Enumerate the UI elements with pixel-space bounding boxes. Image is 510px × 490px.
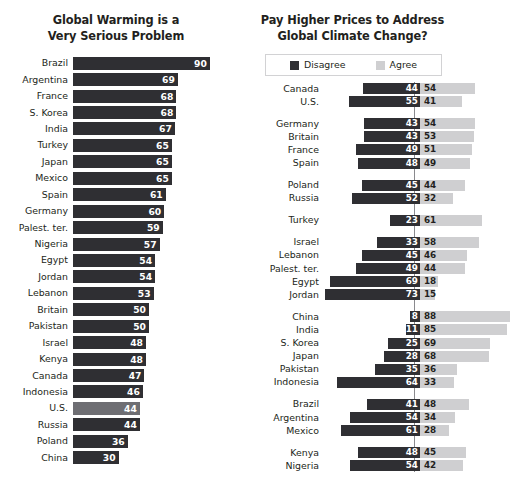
right-chart-value-agree: 33 [421,377,436,388]
left-chart-bar-track: 90 [73,57,232,70]
right-chart-bar-disagree: 11 [406,324,420,335]
left-chart-title-line2: Very Serious Problem [0,29,232,45]
right-chart-bar-track: 4951 [325,144,473,155]
left-chart-row: Britain50 [0,302,232,318]
left-chart-row-label: Brazil [0,58,73,68]
right-chart-row: Israel3358 [232,236,473,249]
left-chart-bar-value: 61 [150,188,166,201]
left-chart-bar-value: 68 [161,90,177,103]
legend-item-disagree: Disagree [290,60,346,70]
left-chart-bar-track: 44 [73,418,232,431]
left-chart-row-label: Indonesia [0,387,73,397]
left-chart-title: Global Warming is a Very Serious Problem [0,0,232,44]
right-chart-value-disagree: 49 [406,263,420,274]
left-chart-bar-value: 36 [112,435,128,448]
left-chart-row: India67 [0,121,232,137]
right-chart-bar-track: 5442 [325,460,473,471]
right-chart-bar-track: 4944 [325,263,473,274]
right-chart-value-agree: 51 [421,144,436,155]
left-chart-row: Argentina69 [0,71,232,87]
left-chart-row: Pakistan50 [0,318,232,334]
right-chart-value-agree: 44 [421,180,436,191]
left-chart-bar-value: 54 [139,254,155,267]
right-chart-bar-disagree: 35 [375,364,421,375]
left-chart-row: Russia44 [0,417,232,433]
left-chart-bar-track: 68 [73,106,232,119]
right-chart-value-agree: 28 [421,425,436,436]
right-chart-bar-track: 2868 [325,351,473,362]
left-chart-row-label: France [0,91,73,101]
right-chart-value-disagree: 44 [406,83,420,94]
right-chart-row: Palest. ter.4944 [232,262,473,275]
left-chart-bar-track: 36 [73,435,232,448]
left-chart-row-label: Japan [0,157,73,167]
right-chart-bar-track: 4353 [325,131,473,142]
right-chart-bar-track: 4544 [325,180,473,191]
right-chart-bar-disagree: 49 [356,144,420,155]
left-chart-bar: 46 [73,385,143,398]
left-chart-row: Brazil90 [0,55,232,71]
right-chart-value-disagree: 43 [406,118,420,129]
left-chart-bar-value: 48 [130,336,146,349]
right-chart-row-label: France [232,145,325,155]
left-chart-bar: 44 [73,402,140,415]
right-chart-row: Pakistan3536 [232,363,473,376]
right-chart-row-label: Brazil [232,399,325,409]
left-chart-bar-value: 54 [139,270,155,283]
left-chart-bar-track: 50 [73,303,232,316]
right-chart-row-label: Japan [232,351,325,361]
left-chart-bar-track: 60 [73,205,232,218]
left-chart-bar-track: 44 [73,402,232,415]
left-chart-bar-value: 53 [138,287,154,300]
left-chart-bar: 65 [73,172,172,185]
left-chart-row-label: Mexico [0,173,73,183]
right-chart-bar-disagree: 69 [330,276,420,287]
right-chart-row-label: Jordan [232,290,325,300]
right-chart-bar-track: 6918 [325,276,473,287]
left-chart-bar-value: 65 [156,155,172,168]
right-chart-bar-track: 2361 [325,215,473,226]
right-chart-value-disagree: 41 [406,399,420,410]
left-chart-bar: 47 [73,369,144,382]
left-chart-row-label: S. Korea [0,108,73,118]
right-chart-value-disagree: 73 [406,289,420,300]
right-chart-group-gap [232,205,473,214]
right-chart-value-agree: 44 [421,263,436,274]
right-chart-row-label: Russia [232,193,325,203]
right-chart-row-label: S. Korea [232,338,325,348]
right-chart-bar-disagree: 52 [352,193,420,204]
right-chart-row-label: Turkey [232,215,325,225]
left-chart-row-label: Canada [0,371,73,381]
right-chart-row-label: Lebanon [232,250,325,260]
left-chart-bar-value: 44 [124,402,140,415]
right-chart-row: Jordan7315 [232,288,473,301]
left-chart-bar-value: 60 [148,205,164,218]
left-chart-bar-track: 68 [73,90,232,103]
right-chart-bar-track: 5541 [325,96,473,107]
left-chart-bar: 59 [73,221,163,234]
right-chart-value-agree: 58 [421,237,436,248]
left-chart-bar-track: 67 [73,122,232,135]
right-chart-rows: Canada4454U.S.5541Germany4354Britain4353… [232,82,473,472]
left-chart-bar-track: 54 [73,270,232,283]
right-chart-bar-track: 4148 [325,399,473,410]
left-chart-row-label: Argentina [0,75,73,85]
left-chart-bar: 67 [73,122,175,135]
right-chart-bar-disagree: 43 [364,118,420,129]
right-chart-bar-disagree: 44 [363,83,420,94]
right-chart-value-disagree: 48 [406,447,420,458]
right-chart-value-disagree: 48 [406,158,420,169]
right-chart-value-agree: 45 [421,447,436,458]
right-chart-value-disagree: 55 [406,96,420,107]
right-chart-bar-disagree: 54 [350,412,420,423]
left-chart-row: Spain61 [0,187,232,203]
right-chart-group-gap [232,389,473,398]
right-chart-value-agree: 53 [421,131,436,142]
left-chart-row-label: Turkey [0,140,73,150]
right-chart-bar-disagree: 61 [341,425,420,436]
right-chart-row: Turkey2361 [232,214,473,227]
right-chart-row: Britain4353 [232,130,473,143]
right-chart-row-label: Pakistan [232,364,325,374]
right-chart-value-agree: 36 [421,364,436,375]
left-chart-row: Kenya48 [0,351,232,367]
